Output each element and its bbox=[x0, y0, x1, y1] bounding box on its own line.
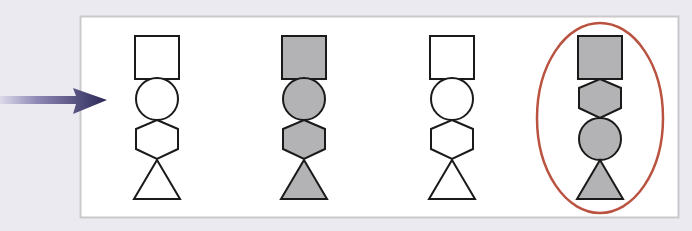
diagram-canvas bbox=[0, 0, 692, 231]
circle-shape bbox=[283, 78, 325, 120]
square-shape bbox=[430, 36, 474, 79]
square-shape bbox=[135, 36, 179, 79]
square-shape bbox=[282, 36, 326, 79]
circle-shape bbox=[136, 78, 178, 120]
square-shape bbox=[578, 36, 622, 79]
circle-shape bbox=[431, 78, 473, 120]
circle-shape bbox=[579, 118, 621, 160]
